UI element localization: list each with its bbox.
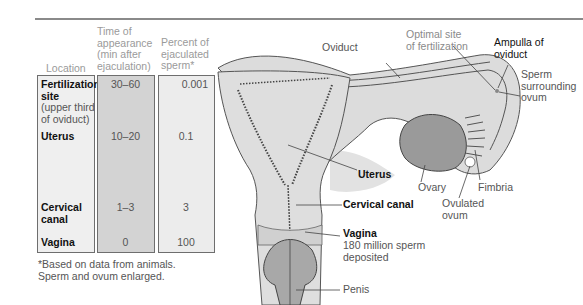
label-oviduct: Oviduct (322, 42, 358, 54)
label-ovulated-line1: Ovulated (442, 198, 484, 210)
label-ampulla: Ampulla of oviduct (494, 37, 544, 60)
label-ovulated-ovum: Ovulated ovum (442, 198, 484, 221)
label-ampulla-line2: oviduct (494, 49, 544, 61)
label-ampulla-line1: Ampulla of (494, 37, 544, 49)
label-sperm-line1: Sperm (521, 69, 576, 81)
label-penis: Penis (343, 284, 369, 296)
label-cervical-canal: Cervical canal (343, 199, 414, 211)
label-sperm-surrounding-ovum: Sperm surrounding ovum (521, 69, 576, 104)
label-optimal-site-line1: Optimal site (406, 29, 468, 41)
label-fimbria: Fimbria (478, 182, 513, 194)
label-optimal-site-line2: of fertilization (406, 41, 468, 53)
label-optimal-site: Optimal site of fertilization (406, 29, 468, 52)
label-vagina: Vagina (343, 228, 377, 240)
label-ovary: Ovary (418, 182, 446, 194)
label-ovulated-line2: ovum (442, 210, 484, 222)
label-vagina-sub: 180 million sperm deposited (343, 240, 425, 263)
label-sperm-line3: ovum (521, 92, 576, 104)
label-uterus: Uterus (358, 169, 391, 181)
label-vagina-sub-line2: deposited (343, 252, 425, 264)
label-vagina-sub-line1: 180 million sperm (343, 240, 425, 252)
